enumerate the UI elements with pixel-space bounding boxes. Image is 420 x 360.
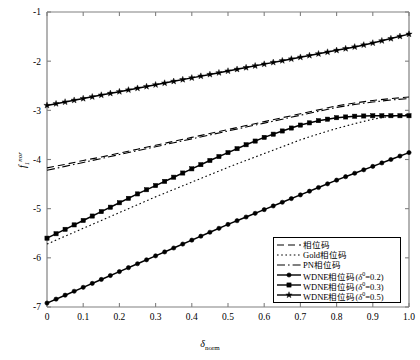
x-tick-label: 0.7: [294, 312, 306, 322]
x-tick-label: 0.2: [113, 312, 125, 322]
legend-item[interactable]: Gold相位码: [276, 250, 397, 260]
x-axis-label: δnorm: [0, 338, 420, 352]
chart-plot-area: -1-2-3-4-5-6-700.10.20.30.40.50.60.70.80…: [0, 0, 420, 360]
y-tick-label: -1: [33, 7, 41, 17]
legend-item-label: WDNE相位码(δ0=0.5): [303, 289, 384, 302]
x-tick-label: 0.9: [367, 312, 379, 322]
y-axis-label-text: f1nor: [17, 152, 28, 168]
y-tick-label: -2: [33, 57, 41, 67]
y-tick-label: -5: [33, 204, 41, 214]
x-tick-label: 0.8: [331, 312, 343, 322]
x-tick-label: 0.6: [258, 312, 270, 322]
chart-series: [44, 31, 412, 108]
y-tick-label: -3: [33, 106, 41, 116]
x-tick-label: 0.3: [150, 312, 162, 322]
x-tick-label: 0: [45, 312, 50, 322]
y-tick-label: -6: [33, 253, 41, 263]
figure-container: -1-2-3-4-5-6-700.10.20.30.40.50.60.70.80…: [0, 0, 420, 360]
legend-line-sample: [276, 240, 302, 250]
legend-line-sample: [276, 250, 302, 260]
legend-line-sample: [276, 280, 302, 290]
legend-line-sample: [276, 290, 302, 300]
chart-series: [47, 97, 409, 168]
legend-item-label: 相位码: [303, 240, 330, 250]
legend-line-sample: [276, 260, 302, 270]
legend-item[interactable]: WDNE相位码(δ0=0.5): [276, 290, 397, 300]
chart-legend: 相位码Gold相位码PN相位码WDNE相位码(δ0=0.2)WDNE相位码(δ0…: [273, 237, 401, 303]
legend-item[interactable]: 相位码: [276, 240, 397, 250]
x-axis-label-text: δnorm: [200, 338, 219, 349]
legend-line-sample: [276, 270, 302, 280]
chart-series: [47, 99, 409, 171]
x-tick-label: 0.4: [186, 312, 198, 322]
x-tick-label: 1.0: [403, 312, 415, 322]
x-tick-label: 0.1: [77, 312, 89, 322]
y-tick-label: -7: [33, 302, 41, 312]
legend-item-label: Gold相位码: [303, 250, 347, 260]
chart-series: [45, 114, 411, 241]
x-tick-label: 0.5: [222, 312, 234, 322]
y-axis-label: f1nor: [16, 130, 36, 190]
